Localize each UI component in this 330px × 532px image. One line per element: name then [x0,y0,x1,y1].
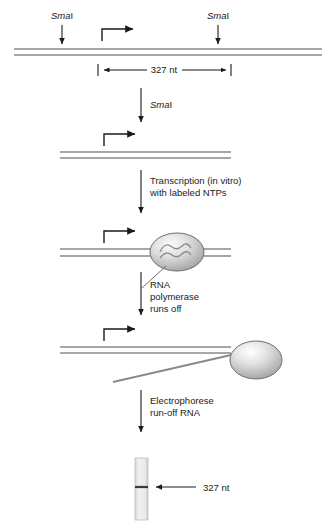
runoff-step-label-line1: RNA [150,279,171,290]
figure-canvas: SmaI SmaI 327 nt SmaI Transcription (in … [0,0,330,532]
length-label-top: 327 nt [151,64,178,75]
transcription-step-label-line2: with labeled NTPs [149,187,227,198]
run-off-transcription-figure: SmaI SmaI 327 nt SmaI Transcription (in … [0,0,330,532]
length-label-gel: 327 nt [203,482,230,493]
rna-polymerase-on-dna [150,233,204,271]
smai-label-left: SmaI [51,10,73,21]
runoff-step-label-line2: polymerase [150,291,199,302]
rna-transcript [113,355,231,382]
promoter-arrow-step2 [104,134,135,146]
electrophorese-step-label-line2: run-off RNA [150,407,201,418]
smai-digest-label: SmaI [150,99,172,110]
runoff-step-label-line3: runs off [150,303,182,314]
gel-lane [135,458,148,520]
transcription-step-label-line1: Transcription (in vitro) [150,175,242,186]
rna-polymerase-detached [230,341,282,379]
rna-polymerase-body [150,233,204,271]
smai-label-right: SmaI [207,10,229,21]
promoter-arrow-step4 [104,329,135,341]
electrophorese-step-label-line1: Electrophorese [150,395,214,406]
promoter-arrow-step1 [102,29,133,41]
promoter-arrow-step3 [104,231,135,243]
